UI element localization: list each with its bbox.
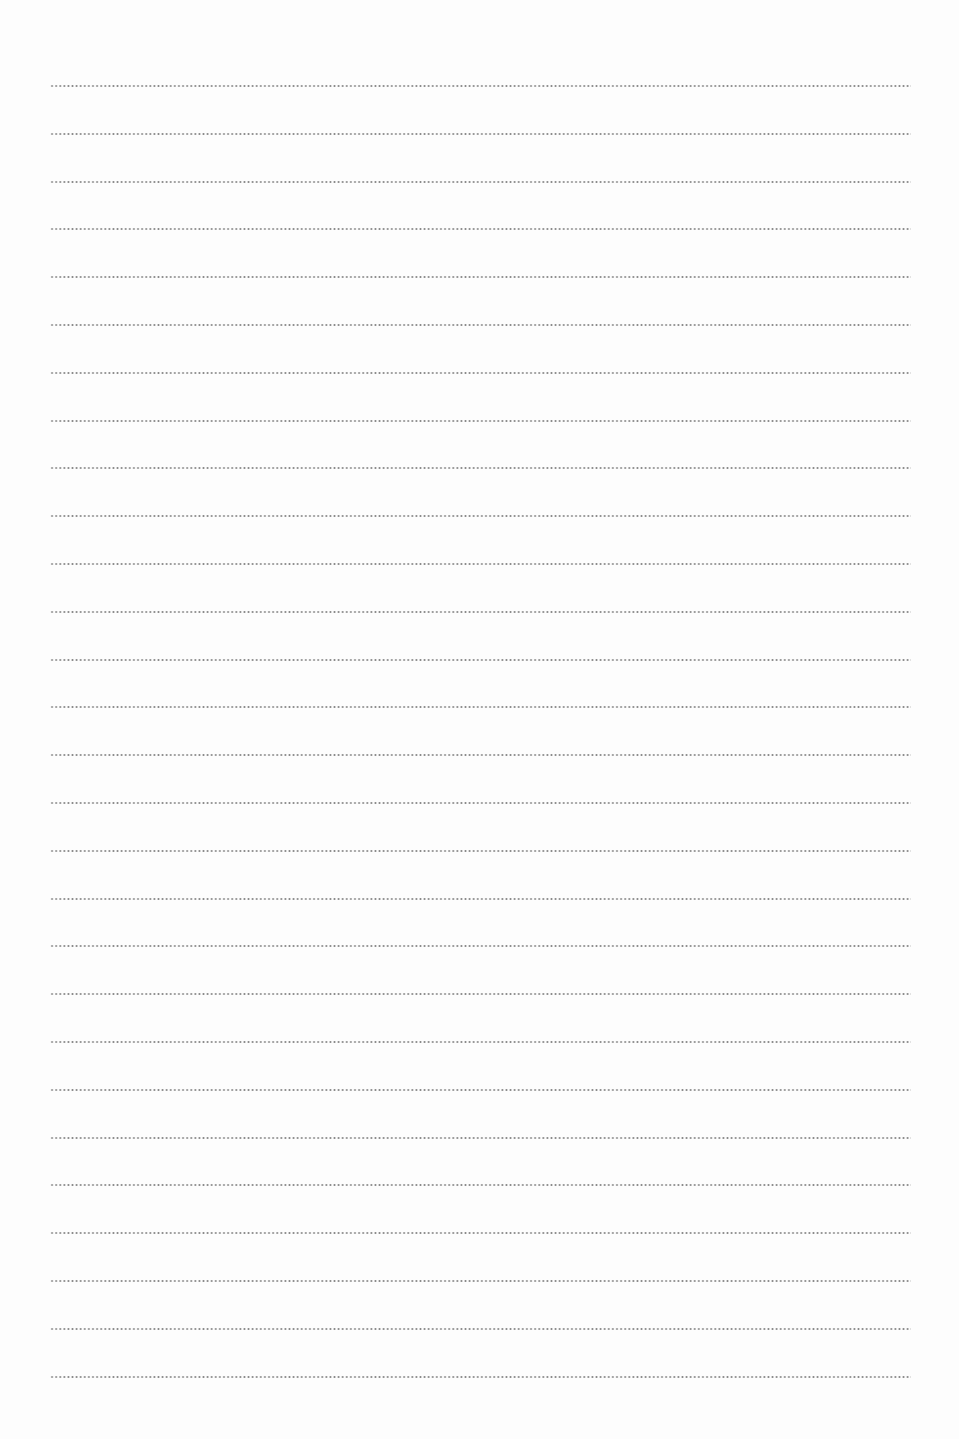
dotted-writing-line xyxy=(50,898,911,900)
dotted-writing-line xyxy=(50,1232,911,1234)
dotted-writing-line xyxy=(50,276,911,278)
dotted-writing-line xyxy=(50,563,911,565)
dotted-writing-line xyxy=(50,324,911,326)
dotted-writing-line xyxy=(50,228,911,230)
dotted-writing-line xyxy=(50,1089,911,1091)
dotted-writing-line xyxy=(50,1328,911,1330)
dotted-writing-line xyxy=(50,1184,911,1186)
dotted-writing-line xyxy=(50,133,911,135)
dotted-writing-line xyxy=(50,754,911,756)
dotted-writing-line xyxy=(50,420,911,422)
dotted-writing-line xyxy=(50,993,911,995)
dotted-writing-line xyxy=(50,467,911,469)
dotted-writing-line xyxy=(50,181,911,183)
dotted-writing-line xyxy=(50,372,911,374)
dotted-writing-line xyxy=(50,802,911,804)
dotted-writing-line xyxy=(50,515,911,517)
dotted-writing-line xyxy=(50,850,911,852)
dotted-writing-line xyxy=(50,706,911,708)
lined-paper-page xyxy=(0,0,959,1439)
dotted-writing-line xyxy=(50,1041,911,1043)
dotted-writing-line xyxy=(50,945,911,947)
dotted-writing-line xyxy=(50,611,911,613)
dotted-writing-line xyxy=(50,1137,911,1139)
dotted-writing-line xyxy=(50,1280,911,1282)
dotted-writing-line xyxy=(50,1376,911,1378)
dotted-writing-line xyxy=(50,659,911,661)
dotted-writing-line xyxy=(50,85,911,87)
